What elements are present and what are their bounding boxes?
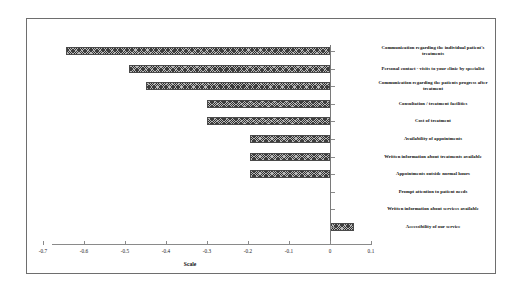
category-label: Accessibility of our service xyxy=(372,224,494,230)
y-tick xyxy=(331,86,335,87)
category-label: Communication regarding the individual p… xyxy=(372,45,494,57)
x-tick-label: -0.5 xyxy=(121,248,130,254)
x-tick xyxy=(207,241,208,245)
y-tick xyxy=(331,139,335,140)
category-label: Prompt attention to patient needs xyxy=(372,189,494,195)
x-tick xyxy=(84,241,85,245)
y-tick xyxy=(331,209,335,210)
y-tick xyxy=(331,174,335,175)
category-label: Cost of treatment xyxy=(372,118,494,124)
bar xyxy=(146,82,331,90)
y-tick xyxy=(331,227,335,228)
x-tick-label: -0.7 xyxy=(39,248,48,254)
bar xyxy=(250,170,330,178)
category-label: Availability of appointments xyxy=(372,136,494,142)
y-tick xyxy=(331,121,335,122)
bar xyxy=(129,65,330,73)
y-tick xyxy=(331,104,335,105)
x-tick-label: 0 xyxy=(329,248,332,254)
zero-reference-line xyxy=(330,45,331,244)
y-tick xyxy=(331,69,335,70)
y-tick xyxy=(331,51,335,52)
bar xyxy=(207,100,330,108)
x-tick xyxy=(248,241,249,245)
bar xyxy=(207,117,330,125)
category-label: Written information about services avail… xyxy=(372,206,494,212)
x-axis-line xyxy=(52,244,371,245)
x-tick xyxy=(330,241,331,245)
x-tick xyxy=(166,241,167,245)
y-tick xyxy=(331,157,335,158)
category-label: Consultation / treatment facilities xyxy=(372,101,494,107)
bar xyxy=(250,153,330,161)
category-label: Written information about treatments ava… xyxy=(372,154,494,160)
x-tick-label: -0.3 xyxy=(203,248,212,254)
x-tick xyxy=(371,241,372,245)
y-tick xyxy=(331,192,335,193)
category-label: Personal contact - visits to your clinic… xyxy=(372,66,494,72)
x-tick-label: -0.6 xyxy=(80,248,89,254)
x-tick xyxy=(289,241,290,245)
category-label: Communication regarding the patients pro… xyxy=(372,80,494,92)
x-tick xyxy=(125,241,126,245)
category-label: Appointments outside normal hours xyxy=(372,171,494,177)
x-tick-label: -0.1 xyxy=(285,248,294,254)
x-tick-label: -0.2 xyxy=(244,248,253,254)
bar xyxy=(250,135,330,143)
chart-canvas: -0.7-0.6-0.5-0.4-0.3-0.2-0.100.1 Scale C… xyxy=(0,0,523,292)
bar xyxy=(66,47,330,55)
x-axis-title: Scale xyxy=(184,261,196,267)
x-tick-label: 0.1 xyxy=(368,248,375,254)
x-tick xyxy=(43,241,44,245)
x-tick-label: -0.4 xyxy=(162,248,171,254)
